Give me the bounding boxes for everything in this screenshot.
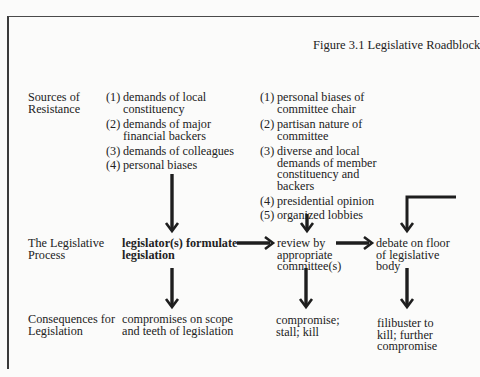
arrow-down-icon (401, 268, 413, 307)
arrow-elbow-down-icon (401, 197, 456, 231)
arrow-down-icon (166, 268, 178, 307)
arrow-right-icon (237, 237, 273, 249)
arrow-down-icon (301, 214, 313, 231)
arrow-down-icon (166, 174, 178, 231)
arrow-right-icon (336, 237, 372, 249)
arrow-down-icon (300, 268, 312, 307)
